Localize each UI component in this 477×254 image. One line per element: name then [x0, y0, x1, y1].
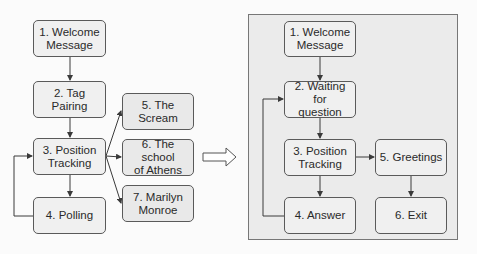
node-label: 1. Welcome Message [39, 26, 100, 52]
left-node-polling: 4. Polling [33, 197, 106, 234]
node-label: 6. Exit [395, 209, 427, 222]
left-node-the-scream: 5. The Scream [122, 93, 194, 130]
right-node-exit: 6. Exit [375, 197, 447, 234]
node-label: 6. The school of Athens [125, 138, 191, 177]
node-label: 2. Waiting for question [287, 80, 353, 119]
node-label: 4. Polling [46, 209, 93, 222]
node-label: 2. Tag Pairing [36, 87, 103, 113]
right-node-greetings: 5. Greetings [375, 139, 447, 176]
right-node-welcome-message: 1. Welcome Message [284, 21, 356, 57]
left-node-position-tracking: 3. Position Tracking [33, 138, 106, 175]
right-node-answer: 4. Answer [284, 197, 356, 234]
left-node-tag-pairing: 2. Tag Pairing [33, 81, 106, 118]
left-node-school-of-athens: 6. The school of Athens [122, 139, 194, 176]
node-label: 1. Welcome Message [290, 26, 351, 52]
node-label: 3. Position Tracking [293, 145, 347, 171]
right-node-waiting-for-question: 2. Waiting for question [284, 81, 356, 118]
left-node-marilyn-monroe: 7. Marilyn Monroe [122, 185, 194, 222]
left-node-welcome-message: 1. Welcome Message [33, 20, 106, 57]
node-label: 4. Answer [295, 209, 346, 222]
node-label: 7. Marilyn Monroe [133, 191, 183, 217]
node-label: 5. The Scream [138, 99, 178, 125]
node-label: 5. Greetings [380, 151, 443, 164]
node-label: 3. Position Tracking [43, 144, 97, 170]
right-node-position-tracking: 3. Position Tracking [284, 139, 356, 176]
